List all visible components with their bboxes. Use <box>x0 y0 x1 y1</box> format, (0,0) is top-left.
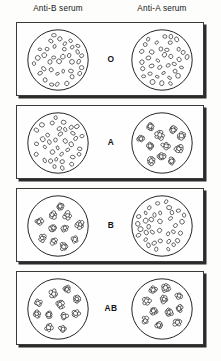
blood-type-label: A <box>91 106 131 178</box>
well-left <box>26 194 90 258</box>
well-outline <box>132 196 192 256</box>
result-row-panel: A <box>16 105 204 179</box>
blood-type-label: AB <box>91 272 131 344</box>
well-left <box>26 277 90 341</box>
well-right <box>130 111 194 175</box>
result-row-panel: O <box>16 22 204 96</box>
well-left <box>26 111 90 175</box>
well-left <box>26 28 90 92</box>
blood-type-label: B <box>91 189 131 261</box>
well-right <box>130 28 194 92</box>
column-header-row: Anti-B serum Anti-A serum <box>0 0 221 22</box>
blood-type-label: O <box>91 23 131 95</box>
result-row-panel: B <box>16 188 204 262</box>
blood-typing-figure: Anti-B serum Anti-A serum O A B AB <box>0 0 221 361</box>
column-header-anti-b: Anti-B serum <box>18 4 98 13</box>
well-right <box>130 277 194 341</box>
well-outline <box>28 279 88 339</box>
well-right <box>130 194 194 258</box>
column-header-anti-a: Anti-A serum <box>122 4 202 13</box>
result-row-panel: AB <box>16 271 204 345</box>
